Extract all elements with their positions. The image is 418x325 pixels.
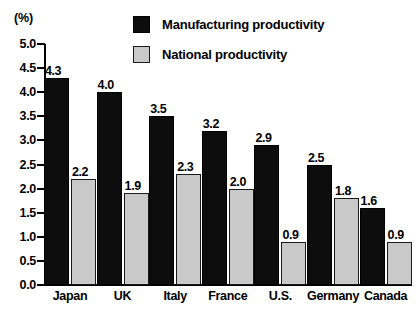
bar-value-label: 1.9 xyxy=(125,180,141,193)
bar-value-label: 1.6 xyxy=(361,195,377,208)
y-axis-tick-label: 2.0 xyxy=(2,182,36,196)
bar-national: 2.0 xyxy=(229,189,254,285)
bar-manufacturing: 3.5 xyxy=(149,116,174,285)
bar-group: 1.60.9 xyxy=(360,44,412,285)
bar-manufacturing: 3.2 xyxy=(202,131,227,285)
y-axis-tick-label: 1.0 xyxy=(2,230,36,244)
y-axis-tick-label: 2.5 xyxy=(2,158,36,172)
bar-national: 2.2 xyxy=(71,179,96,285)
bar-value-label: 0.9 xyxy=(282,229,298,242)
bar-group: 3.22.0 xyxy=(202,44,254,285)
bar-value-label: 2.2 xyxy=(72,166,88,179)
bar-group: 4.01.9 xyxy=(97,44,149,285)
bar-manufacturing: 2.5 xyxy=(307,165,332,286)
y-axis-unit-label: (%) xyxy=(14,11,33,25)
y-axis-tick-label: 4.5 xyxy=(2,61,36,75)
plot-area: 4.32.24.01.93.52.33.22.02.90.92.51.81.60… xyxy=(44,44,412,285)
y-axis-tick-label: 5.0 xyxy=(2,37,36,51)
bar-group: 2.51.8 xyxy=(307,44,359,285)
bar-group: 4.32.2 xyxy=(44,44,96,285)
y-axis-tick-label: 3.0 xyxy=(2,133,36,147)
bar-national: 0.9 xyxy=(387,242,412,285)
bar-value-label: 2.3 xyxy=(177,161,193,174)
bar-manufacturing: 4.0 xyxy=(97,92,122,285)
bar-national: 2.3 xyxy=(176,174,201,285)
bar-chart: (%) 0.00.51.01.52.02.53.03.54.04.55.0 4.… xyxy=(0,0,418,325)
y-axis-tick-label: 0.0 xyxy=(2,278,36,292)
y-axis-tick-label: 4.0 xyxy=(2,85,36,99)
bar-value-label: 3.2 xyxy=(203,118,219,131)
bar-manufacturing: 4.3 xyxy=(44,78,69,285)
bar-national: 1.8 xyxy=(334,198,359,285)
bar-national: 1.9 xyxy=(124,193,149,285)
bar-value-label: 2.0 xyxy=(230,176,246,189)
legend-label-manufacturing: Manufacturing productivity xyxy=(162,16,324,33)
bar-value-label: 0.9 xyxy=(388,229,404,242)
y-axis-tick-label: 1.5 xyxy=(2,206,36,220)
bar-value-label: 1.8 xyxy=(335,185,351,198)
bar-manufacturing: 2.9 xyxy=(254,145,279,285)
y-axis-tick-label: 3.5 xyxy=(2,109,36,123)
bar-group: 3.52.3 xyxy=(149,44,201,285)
bar-value-label: 2.5 xyxy=(308,152,324,165)
bar-manufacturing: 1.6 xyxy=(360,208,385,285)
x-axis-label-canada: Canada xyxy=(350,289,418,303)
legend-swatch-national-icon xyxy=(133,46,150,63)
bar-group: 2.90.9 xyxy=(254,44,306,285)
y-axis-tick-label: 0.5 xyxy=(2,254,36,268)
bar-value-label: 3.5 xyxy=(150,103,166,116)
bar-value-label: 4.0 xyxy=(98,79,114,92)
bar-national: 0.9 xyxy=(281,242,306,285)
legend-swatch-manufacturing-icon xyxy=(133,16,150,33)
bar-value-label: 2.9 xyxy=(255,132,271,145)
legend-label-national: National productivity xyxy=(162,46,287,63)
bar-value-label: 4.3 xyxy=(45,65,61,78)
